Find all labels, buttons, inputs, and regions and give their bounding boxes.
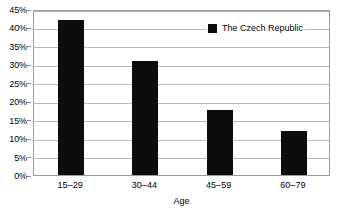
bar	[58, 20, 84, 175]
legend-swatch-icon	[208, 24, 217, 33]
bar-chart: 0%5%10%15%20%25%30%35%40%45% The Czech R…	[0, 0, 342, 218]
bar	[207, 110, 233, 175]
y-tick-label: 40%	[9, 23, 27, 33]
y-tick-label: 35%	[9, 42, 27, 52]
x-tick-label: 60–79	[280, 180, 305, 190]
x-tick-label: 30–44	[132, 180, 157, 190]
y-tick-mark	[27, 83, 31, 84]
x-axis-title: Age	[33, 196, 330, 206]
plot-area: The Czech Republic	[33, 10, 330, 176]
y-tick-mark	[27, 139, 31, 140]
y-tick-mark	[27, 65, 31, 66]
y-tick-mark	[27, 10, 31, 11]
y-tick-label: 20%	[9, 97, 27, 107]
bar	[281, 131, 307, 175]
x-axis: 15–2930–4445–5960–79	[33, 180, 330, 194]
y-tick-label: 5%	[14, 153, 27, 163]
y-tick-label: 10%	[9, 134, 27, 144]
x-tick-label: 45–59	[206, 180, 231, 190]
legend-item-label: The Czech Republic	[222, 23, 303, 33]
y-tick-mark	[27, 28, 31, 29]
y-axis: 0%5%10%15%20%25%30%35%40%45%	[0, 10, 31, 176]
y-tick-mark	[27, 157, 31, 158]
legend: The Czech Republic	[206, 22, 305, 34]
x-tick-label: 15–29	[58, 180, 83, 190]
y-tick-label: 30%	[9, 60, 27, 70]
gridline	[34, 11, 329, 12]
y-tick-label: 45%	[9, 5, 27, 15]
y-tick-label: 0%	[14, 171, 27, 181]
y-tick-label: 25%	[9, 79, 27, 89]
y-tick-mark	[27, 120, 31, 121]
y-tick-label: 15%	[9, 116, 27, 126]
y-tick-mark	[27, 102, 31, 103]
bar	[132, 61, 158, 175]
y-tick-mark	[27, 46, 31, 47]
y-tick-mark	[27, 176, 31, 177]
